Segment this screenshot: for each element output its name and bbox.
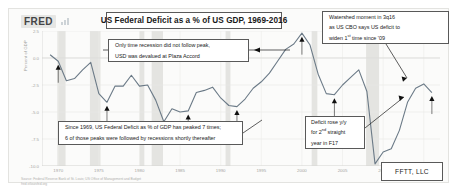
recession-band [57,31,65,166]
yoy-line-1: Deficit rose y/y [311,117,359,128]
peak-arrow-marker [429,96,434,114]
peak-arrow-marker [299,37,304,55]
x-tick-label: 2005 [338,168,348,173]
chart-source-note: Source: Federal Reserve Bank of St. Loui… [21,177,141,187]
fred-logo: FRED [21,15,56,28]
yoy-line-2: for 2nd straight [311,127,359,138]
x-tick-label: 1970 [53,168,63,173]
bar-chart-icon [61,18,70,25]
source-line-2: fred.stlouisfed.org [21,182,141,187]
watershed-line-3: widen 1st time since '09 [329,33,442,44]
x-tick-label: 1990 [216,168,226,173]
peaks-line-1: Since 1969, US Federal Deficit as % of G… [65,122,236,133]
branding-text: FFTT, LLC [395,168,429,175]
y-tick-label: -2.5 [31,83,39,88]
peak-arrow-marker [332,98,337,116]
y-axis-ticks: 2.50.0-2.5-5.0-7.5-10.0 [9,31,39,166]
chart-title-text: US Federal Deficit as a % of US GDP, 196… [101,16,287,25]
x-tick-label: 2000 [297,168,307,173]
peaks-line-2: 6 of those peaks were followed by recess… [65,133,236,144]
y-tick-label: -5.0 [31,110,39,115]
callout-deficit-rose-yoy: Deficit rose y/y for 2nd straight year i… [305,116,365,149]
x-tick-label: 1985 [175,168,185,173]
callout-branding-fftt: FFTT, LLC [381,162,443,181]
y-tick-label: -10.0 [29,164,39,169]
screenshot-root: FRED Percent of GDP 2.50.0-2.5-5.0-7.5-1… [0,0,457,191]
y-tick-label: -7.5 [31,137,39,142]
callout-chart-title: US Federal Deficit as a % of US GDP, 196… [106,12,282,29]
watershed-line-1: Watershed moment in 3q16 [329,12,442,23]
x-tick-label: 1980 [135,168,145,173]
plaza-line-1: Only time recession did not follow peak, [115,40,242,51]
callout-watershed-moment: Watershed moment in 3q16 as US CBO says … [322,11,449,44]
watershed-line-2: as US CBO says US deficit to [329,22,442,33]
y-tick-label: 0.0 [33,56,39,61]
x-tick-label: 1975 [94,168,104,173]
yoy-line-3: year in F17 [311,138,359,149]
y-tick-label: 2.5 [33,29,39,34]
callout-seven-peaks: Since 1969, US Federal Deficit as % of G… [58,121,243,145]
callout-plaza-accord: Only time recession did not follow peak,… [108,39,249,62]
x-tick-label: 1995 [256,168,266,173]
plaza-line-2: USD was devalued at Plaza Accord [115,51,242,62]
